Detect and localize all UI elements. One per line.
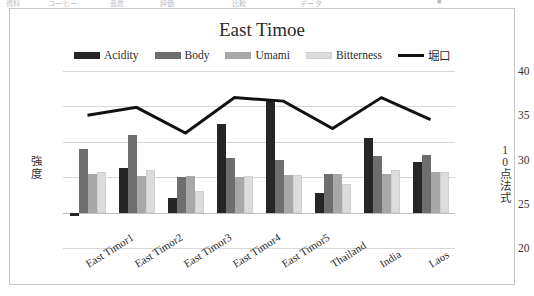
legend-item-umami[interactable]: Umami	[225, 49, 290, 61]
legend-swatch-bitterness	[306, 52, 332, 59]
x-tick-label: India	[377, 248, 403, 270]
y-axis-label-right: 10点法式	[497, 144, 513, 204]
legend-label-acidity: Acidity	[104, 49, 139, 61]
legend-label-bitterness: Bitterness	[336, 49, 382, 61]
y-tick-label-right: 20	[518, 242, 534, 254]
legend-label-body: Body	[185, 49, 210, 61]
y-axis-label-left: 強度	[28, 155, 44, 181]
cut-off-text-strip: 資料 コーヒー 品質 評価 比較 データ ■	[0, 0, 526, 7]
strip-fragment-4: 比較	[232, 0, 247, 7]
legend-swatch-umami	[225, 52, 251, 59]
legend-label-horiguchi: 堀口	[428, 47, 450, 63]
x-tick-label: Laos	[426, 248, 450, 270]
strip-fragment-0: 資料	[6, 0, 21, 7]
y-tick-label-right: 30	[518, 154, 534, 166]
line-series-horiguchi	[63, 71, 455, 248]
legend-item-bitterness[interactable]: Bitterness	[306, 49, 382, 61]
strip-fragment-3: 評価	[160, 0, 175, 7]
legend-swatch-acidity	[74, 52, 100, 59]
x-label-cell: Laos	[406, 250, 455, 296]
chart-legend: Acidity Body Umami Bitterness 堀口	[10, 47, 514, 63]
x-label-cell: East Timor2	[112, 250, 161, 296]
plot-area: 21.510.50-0.5 4035302520	[63, 71, 455, 248]
strip-fragment-6: ■	[437, 0, 442, 5]
legend-label-umami: Umami	[255, 49, 290, 61]
legend-item-acidity[interactable]: Acidity	[74, 49, 139, 61]
legend-swatch-body	[155, 52, 181, 59]
y-tick-label-right: 35	[518, 109, 534, 121]
legend-item-horiguchi[interactable]: 堀口	[398, 47, 450, 63]
x-label-cell: East Timor3	[161, 250, 210, 296]
legend-item-body[interactable]: Body	[155, 49, 210, 61]
y-tick-label-right: 25	[518, 198, 534, 210]
chart-container: East Timoe Acidity Body Umami Bitterness…	[9, 8, 515, 285]
strip-fragment-2: 品質	[110, 0, 125, 7]
strip-fragment-1: コーヒー	[48, 0, 78, 7]
y-tick-label-right: 40	[518, 65, 534, 77]
legend-line-horiguchi	[398, 54, 424, 57]
strip-fragment-5: データ	[300, 0, 322, 7]
x-axis-labels: East Timor1East Timor2East Timor3East Ti…	[63, 250, 455, 296]
x-label-cell: Thailand	[308, 250, 357, 296]
x-label-cell: East Timor5	[259, 250, 308, 296]
line-path-horiguchi	[88, 98, 431, 133]
x-label-cell: East Timor1	[63, 250, 112, 296]
x-label-cell: East Timor4	[210, 250, 259, 296]
x-label-cell: India	[357, 250, 406, 296]
chart-title: East Timoe	[10, 19, 514, 41]
